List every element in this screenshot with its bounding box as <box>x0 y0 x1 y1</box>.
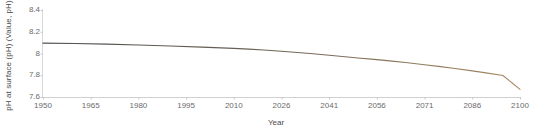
x-tick-label: 2041 <box>320 101 338 110</box>
x-axis-tick-labels: 1950196519801995201020262041205620712086… <box>0 101 552 113</box>
chart-container: pH at surface (pH) (Value, pH) 8.48.287.… <box>0 0 552 137</box>
x-tick-label: 1980 <box>129 101 147 110</box>
x-tick-label: 2100 <box>511 101 529 110</box>
x-tick-label: 1950 <box>34 101 52 110</box>
data-line-ph-at-surface <box>43 43 520 89</box>
x-tick-label: 2056 <box>368 101 386 110</box>
x-tick-label: 2026 <box>273 101 291 110</box>
x-tick-label: 1965 <box>82 101 100 110</box>
x-tick-label: 2010 <box>225 101 243 110</box>
x-axis-title-text: Year <box>268 118 284 127</box>
x-axis-title: Year <box>0 118 552 127</box>
plot-area <box>0 0 552 137</box>
x-tick-label: 2071 <box>416 101 434 110</box>
x-tick-label: 2086 <box>463 101 481 110</box>
x-tick-label: 1995 <box>177 101 195 110</box>
